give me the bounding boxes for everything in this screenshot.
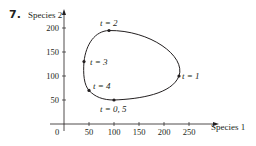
label-t2: t = 2 bbox=[100, 18, 118, 28]
label-t0: t = 0, 5 bbox=[100, 104, 127, 114]
y-tick-label: 150 bbox=[46, 47, 59, 57]
point-t3 bbox=[82, 60, 85, 63]
point-t0 bbox=[112, 98, 115, 101]
problem-number: 7. bbox=[9, 8, 21, 21]
y-tick-label: 200 bbox=[46, 23, 59, 33]
point-t2 bbox=[107, 29, 110, 32]
point-t4 bbox=[87, 89, 90, 92]
y-axis-arrow-icon bbox=[62, 9, 66, 15]
x-tick-label: 100 bbox=[108, 127, 121, 137]
label-t1: t = 1 bbox=[182, 71, 200, 81]
point-t1 bbox=[177, 74, 180, 77]
label-t4: t = 4 bbox=[93, 81, 111, 91]
y-tick-label: 50 bbox=[51, 95, 60, 105]
x-tick-label: 200 bbox=[158, 127, 171, 137]
y-axis-label: Species 2 bbox=[28, 10, 62, 20]
x-axis-label: Species 1 bbox=[211, 122, 245, 132]
x-tick-label: 250 bbox=[183, 127, 196, 137]
origin-label: 0 bbox=[55, 127, 59, 137]
x-tick-label: 50 bbox=[85, 127, 94, 137]
y-ticks: 200 150 100 50 bbox=[46, 23, 66, 105]
label-t3: t = 3 bbox=[90, 57, 108, 67]
phase-plot: 7. Species 2 Species 1 0 200 150 100 50 … bbox=[0, 0, 256, 146]
x-tick-label: 150 bbox=[133, 127, 146, 137]
y-tick-label: 100 bbox=[46, 71, 59, 81]
